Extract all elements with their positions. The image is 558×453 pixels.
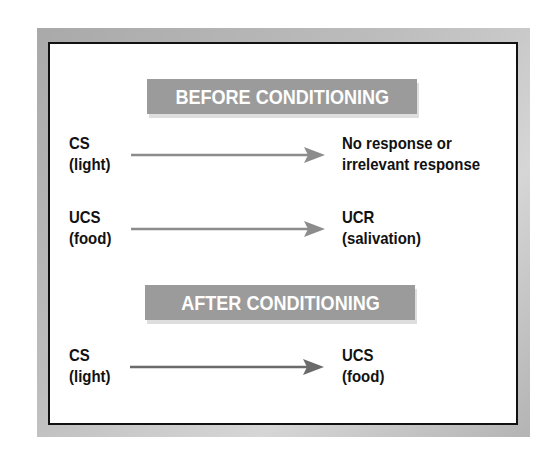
arrow-right-icon [129,357,325,377]
section-banner-before-conditioning: BEFORE CONDITIONING [147,79,417,114]
section-banner-after-conditioning: AFTER CONDITIONING [145,285,415,320]
section-title: AFTER CONDITIONING [181,291,380,315]
response-label-ucr-salivation: UCR (salivation) [342,207,432,249]
arrow-right-icon [130,219,326,239]
response-label-ucs-food: UCS (food) [342,345,390,387]
stimulus-label-cs-light: CS (light) [69,133,116,175]
stimulus-label-ucs-food: UCS (food) [69,207,117,249]
response-label-no-response: No response or irrelevant response [342,133,499,175]
section-title: BEFORE CONDITIONING [175,85,389,109]
arrow-right-icon [130,145,326,165]
stimulus-label-cs-light: CS (light) [69,345,116,387]
